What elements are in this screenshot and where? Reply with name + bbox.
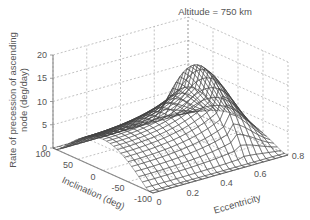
svg-text:node (deg/day): node (deg/day): [18, 68, 29, 132]
svg-text:10: 10: [37, 97, 47, 107]
svg-text:0.4: 0.4: [220, 178, 233, 188]
surface-chart: Altitude = 750 km 05101520100500-50-1000…: [0, 0, 310, 220]
chart-title: Altitude = 750 km: [178, 6, 252, 17]
svg-text:5: 5: [42, 120, 47, 130]
svg-text:Rate of precession of ascendin: Rate of precession of ascending: [7, 32, 18, 168]
z-axis-label: Rate of precession of ascending node (de…: [7, 32, 29, 168]
svg-text:0.2: 0.2: [186, 188, 199, 198]
svg-text:0.8: 0.8: [292, 151, 305, 161]
svg-text:-50: -50: [111, 183, 124, 193]
x-axis-label: Eccentricity: [212, 192, 262, 216]
surface-mesh: [53, 65, 288, 193]
svg-text:0.6: 0.6: [254, 169, 267, 179]
svg-text:0: 0: [156, 197, 161, 207]
svg-text:0: 0: [90, 172, 95, 182]
svg-text:50: 50: [63, 160, 73, 170]
svg-text:100: 100: [35, 149, 50, 159]
svg-text:-100: -100: [134, 194, 152, 204]
svg-text:15: 15: [37, 73, 47, 83]
svg-text:20: 20: [37, 50, 47, 60]
